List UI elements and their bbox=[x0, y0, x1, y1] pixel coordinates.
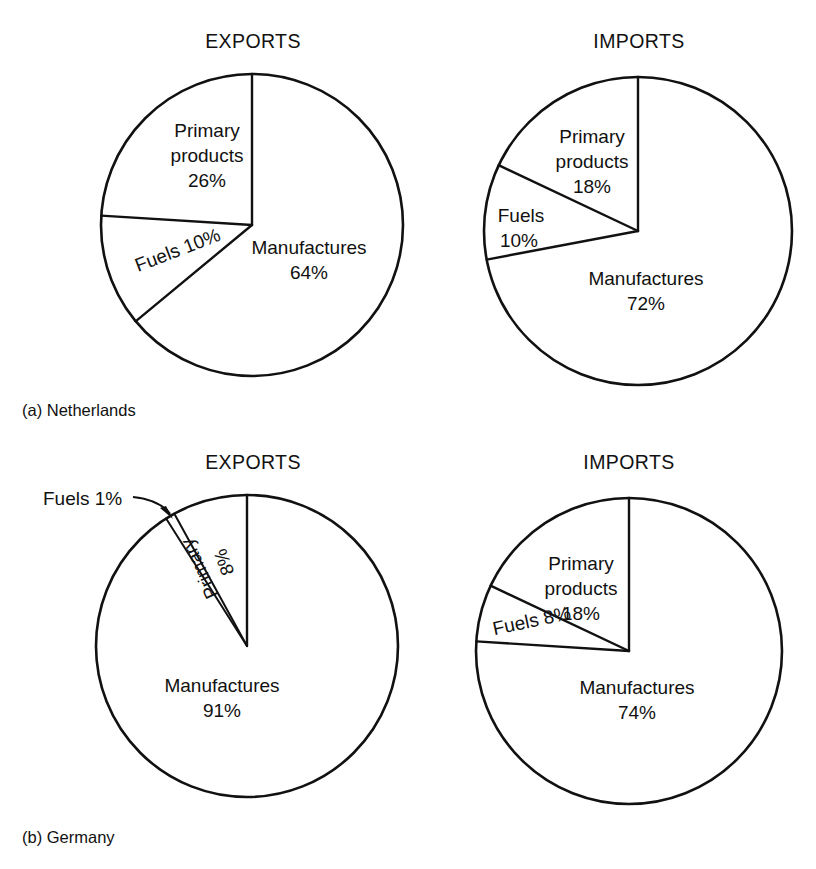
slice-value-primary-products: 18% bbox=[573, 176, 611, 197]
chart-netherlands-exports: EXPORTS Primary products 26% Fuels 10% M… bbox=[101, 30, 403, 376]
panel-caption-netherlands: (a) Netherlands bbox=[22, 401, 136, 419]
chart-title-netherlands-exports: EXPORTS bbox=[205, 30, 301, 52]
callout-label-fuels: Fuels 1% bbox=[43, 488, 122, 509]
chart-germany-imports: IMPORTS Primary products 18% Fuels 8% Ma… bbox=[476, 451, 782, 804]
slice-label-primary-products-line1: Primary bbox=[174, 120, 240, 141]
slice-label-manufactures: Manufactures bbox=[251, 237, 366, 258]
pie-chart-figure: EXPORTS Primary products 26% Fuels 10% M… bbox=[0, 0, 816, 869]
chart-title-netherlands-imports: IMPORTS bbox=[593, 30, 684, 52]
slice-label-manufactures: Manufactures bbox=[164, 675, 279, 696]
slice-label-primary-products-line1: Primary bbox=[559, 126, 625, 147]
slice-label-manufactures: Manufactures bbox=[579, 677, 694, 698]
slice-label-primary-products-line2: products bbox=[171, 145, 244, 166]
chart-germany-exports: EXPORTS Primary 8% Fuels 1% Manufactures… bbox=[43, 451, 398, 797]
slice-label-fuels: Fuels bbox=[498, 205, 544, 226]
slice-value-manufactures: 64% bbox=[290, 262, 328, 283]
slice-value-primary-products: 26% bbox=[188, 170, 226, 191]
panel-netherlands: EXPORTS Primary products 26% Fuels 10% M… bbox=[22, 30, 792, 419]
chart-title-germany-imports: IMPORTS bbox=[583, 451, 674, 473]
figure-canvas: EXPORTS Primary products 26% Fuels 10% M… bbox=[0, 0, 816, 869]
slice-value-manufactures: 72% bbox=[627, 293, 665, 314]
panel-germany: EXPORTS Primary 8% Fuels 1% Manufactures… bbox=[22, 451, 782, 846]
slice-label-primary-products-line1: Primary bbox=[548, 553, 614, 574]
slice-label-primary-products-line2: products bbox=[545, 578, 618, 599]
chart-netherlands-imports: IMPORTS Primary products 18% Fuels 10% M… bbox=[484, 30, 792, 385]
slice-value-manufactures: 91% bbox=[203, 700, 241, 721]
slice-label-manufactures: Manufactures bbox=[588, 268, 703, 289]
panel-caption-germany: (b) Germany bbox=[22, 828, 115, 846]
slice-value-manufactures: 74% bbox=[618, 702, 656, 723]
slice-label-primary-products-line2: products bbox=[556, 151, 629, 172]
chart-title-germany-exports: EXPORTS bbox=[205, 451, 301, 473]
slice-value-fuels: 10% bbox=[500, 230, 538, 251]
